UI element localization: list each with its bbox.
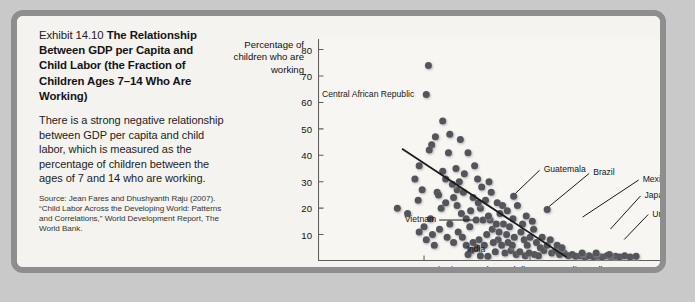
y-tick-label: 60 [286,97,312,108]
annotation-label: Brazil [593,168,615,178]
exhibit-figure: Exhibit 14.10 The Relationship Between G… [0,0,695,302]
annotation-label: Vietnam [405,215,436,225]
plot-canvas [318,39,660,261]
scatter-chart: Percentage of children who are working [232,26,660,267]
exhibit-panel: Exhibit 14.10 The Relationship Between G… [17,16,660,267]
exhibit-source-note: Source: Jean Fares and Dhushyanth Raju (… [39,194,224,234]
exhibit-body-text: There is a strong negative relationship … [39,113,224,186]
x-axis-label: GDP per capita in 2012 (U.S. dollars PPP… [318,264,660,267]
exhibit-panel-frame: Exhibit 14.10 The Relationship Between G… [11,10,666,273]
y-tick-label: 10 [286,229,312,240]
axis-lines [318,39,660,261]
annotation-label: Japan [645,191,660,201]
caption-column: Exhibit 14.10 The Relationship Between G… [39,28,224,234]
y-tick-label: 40 [286,150,312,161]
y-tick-label: 70 [286,71,312,82]
annotation-label: Mexico [643,175,660,185]
annotation-label: United States [652,210,660,220]
y-tick-label: 50 [286,123,312,134]
exhibit-number: Exhibit 14.10 [39,29,107,41]
y-tick-label: 80 [286,44,312,55]
plot-area: 1020304050607080 1001,00010,000100,000 C… [318,39,660,261]
annotation-label: India [467,245,486,255]
annotation-label: Guatemala [544,165,586,175]
annotation-label: Central African Republic [322,90,414,100]
exhibit-title: Exhibit 14.10 The Relationship Between G… [39,28,224,104]
data-points [394,62,640,261]
y-tick-label: 30 [286,176,312,187]
y-tick-label: 20 [286,203,312,214]
